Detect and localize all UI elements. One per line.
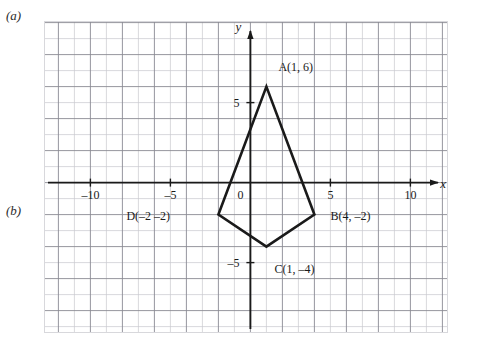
coordinate-grid-plot: –10–55105–50 A(1, 6)B(4, –2)C(1, –4)D(–2… <box>44 21 448 333</box>
y-axis-title: y <box>234 21 242 34</box>
grid-minor-lines <box>44 21 448 333</box>
coordinate-plane-svg: –10–55105–50 A(1, 6)B(4, –2)C(1, –4)D(–2… <box>44 21 448 333</box>
axis-titles-group: xy <box>234 21 447 191</box>
y-tick-label: –5 <box>226 256 239 270</box>
origin-label: 0 <box>237 188 243 202</box>
x-tick-label: 5 <box>327 188 333 202</box>
figure-container: (a) (b) –10–55105–50 A(1, 6)B(4, –2)C(1,… <box>0 0 479 346</box>
vertex-label-b: B(4, –2) <box>330 209 370 223</box>
x-axis-title: x <box>439 176 446 191</box>
x-tick-label: –5 <box>163 188 176 202</box>
grid-major-lines <box>44 21 448 333</box>
vertex-label-d: D(–2 –2) <box>126 209 170 223</box>
y-tick-label: 5 <box>233 96 239 110</box>
vertex-label-a: A(1, 6) <box>278 60 313 74</box>
vertex-labels-group: A(1, 6)B(4, –2)C(1, –4)D(–2 –2) <box>126 60 370 276</box>
x-tick-label: 10 <box>404 188 416 202</box>
part-label-a: (a) <box>6 8 21 24</box>
x-tick-label: –10 <box>80 188 99 202</box>
vertex-label-c: C(1, –4) <box>274 262 314 276</box>
plot-border <box>45 22 448 333</box>
part-label-b: (b) <box>6 203 21 219</box>
